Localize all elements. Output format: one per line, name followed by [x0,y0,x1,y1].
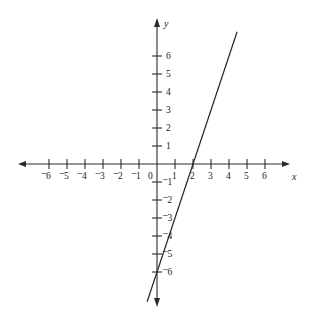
x-axis-left-arrow-icon [18,161,26,167]
y-tick-label-6: 6 [166,51,171,61]
x-axis-tick-labels-negative: – 6 – 5 – 4 – 3 – 2 – 1 [41,168,142,181]
x-tick-label-neg-5: 5 [64,171,69,181]
y-tick-label-neg-6: 6 [168,267,173,277]
y-axis-label: y [163,18,169,29]
x-tick-label-3: 3 [208,171,213,181]
y-tick-label-neg-1: 1 [168,177,173,187]
y-axis-tick-labels-positive: 6 5 4 3 2 1 [166,51,171,151]
x-tick-label-neg-6: 6 [46,171,51,181]
x-tick-label-neg-2: 2 [118,171,123,181]
line-series-y-equals-3x-minus-6 [147,32,237,302]
origin-label: 0 [148,171,153,181]
x-tick-label-neg-4: 4 [82,171,87,181]
y-axis-tick-labels-negative: – 1 – 2 – 3 – 4 – 5 – 6 [162,174,173,277]
x-tick-label-6: 6 [262,171,267,181]
x-axis [18,161,290,167]
x-tick-label-neg-1: 1 [136,171,141,181]
coordinate-plane-figure: – 6 – 5 – 4 – 3 – 2 – 1 0 1 2 3 4 5 6 6 [0,0,312,325]
y-tick-label-3: 3 [166,105,171,115]
x-tick-label-1: 1 [172,171,177,181]
y-axis-up-arrow-icon [154,18,160,27]
y-tick-label-2: 2 [166,123,171,133]
y-tick-label-neg-5: 5 [168,249,173,259]
y-tick-label-4: 4 [166,87,171,97]
y-tick-label-1: 1 [166,141,171,151]
y-axis-down-arrow-icon [154,298,160,307]
x-tick-label-neg-3: 3 [100,171,105,181]
y-tick-label-neg-2: 2 [168,195,173,205]
x-axis-tick-labels-positive: 1 2 3 4 5 6 [172,171,267,181]
y-tick-label-neg-3: 3 [168,213,173,223]
graph-canvas: – 6 – 5 – 4 – 3 – 2 – 1 0 1 2 3 4 5 6 6 [0,0,312,325]
y-tick-label-5: 5 [166,69,171,79]
x-axis-right-arrow-icon [282,161,290,167]
x-tick-label-4: 4 [226,171,231,181]
y-axis [154,18,160,307]
x-tick-label-5: 5 [244,171,249,181]
x-axis-label: x [291,171,297,182]
